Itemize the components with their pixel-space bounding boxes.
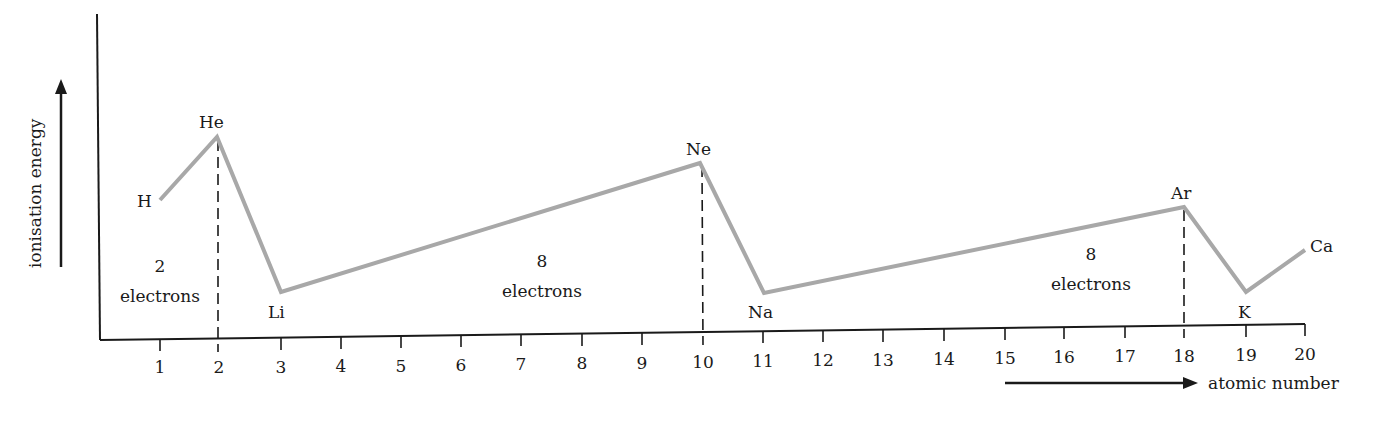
shell2-text: electrons	[502, 281, 582, 301]
svg-text:18: 18	[1173, 346, 1195, 366]
label-h: H	[137, 191, 152, 211]
divider-line-ne	[702, 166, 703, 345]
label-k: K	[1238, 302, 1251, 322]
y-axis-label: ionisation energy	[25, 118, 45, 268]
shell3-text: electrons	[1051, 274, 1131, 294]
shell1-text: electrons	[120, 286, 200, 306]
ionisation-energy-trend-line	[160, 137, 1305, 293]
svg-text:9: 9	[637, 353, 648, 373]
svg-text:5: 5	[396, 356, 407, 376]
svg-text:20: 20	[1294, 344, 1316, 364]
svg-text:8: 8	[577, 353, 588, 373]
svg-text:14: 14	[933, 349, 955, 369]
svg-text:13: 13	[872, 350, 894, 370]
svg-text:11: 11	[752, 351, 774, 371]
svg-text:17: 17	[1114, 346, 1136, 366]
shell1-count: 2	[155, 256, 166, 276]
svg-text:4: 4	[336, 356, 347, 376]
svg-text:16: 16	[1053, 347, 1075, 367]
x-axis-tick-labels: 1 2 3 4 5 6 7 8 9 10 11 12 13 14 15 16 1…	[155, 344, 1316, 377]
svg-text:10: 10	[692, 352, 714, 372]
label-li: Li	[268, 302, 285, 322]
x-axis-arrow-icon	[1005, 377, 1198, 389]
label-ne: Ne	[686, 139, 711, 159]
shell3-count: 8	[1086, 244, 1097, 264]
label-ar: Ar	[1170, 183, 1192, 203]
x-axis-label: atomic number	[1208, 373, 1340, 393]
label-he: He	[199, 112, 224, 132]
y-axis-arrow-icon	[55, 79, 67, 267]
svg-text:19: 19	[1235, 345, 1257, 365]
svg-text:6: 6	[456, 355, 467, 375]
svg-text:15: 15	[994, 348, 1016, 368]
label-ca: Ca	[1310, 236, 1333, 256]
svg-text:3: 3	[276, 357, 287, 377]
label-na: Na	[748, 302, 773, 322]
svg-text:1: 1	[155, 357, 166, 377]
svg-text:7: 7	[516, 354, 527, 374]
shell2-count: 8	[537, 251, 548, 271]
ionisation-energy-chart: H He Li Ne Na Ar K Ca 2 electrons 8 elec…	[0, 0, 1387, 421]
svg-text:2: 2	[214, 357, 225, 377]
svg-text:12: 12	[812, 350, 834, 370]
y-axis	[97, 14, 100, 340]
